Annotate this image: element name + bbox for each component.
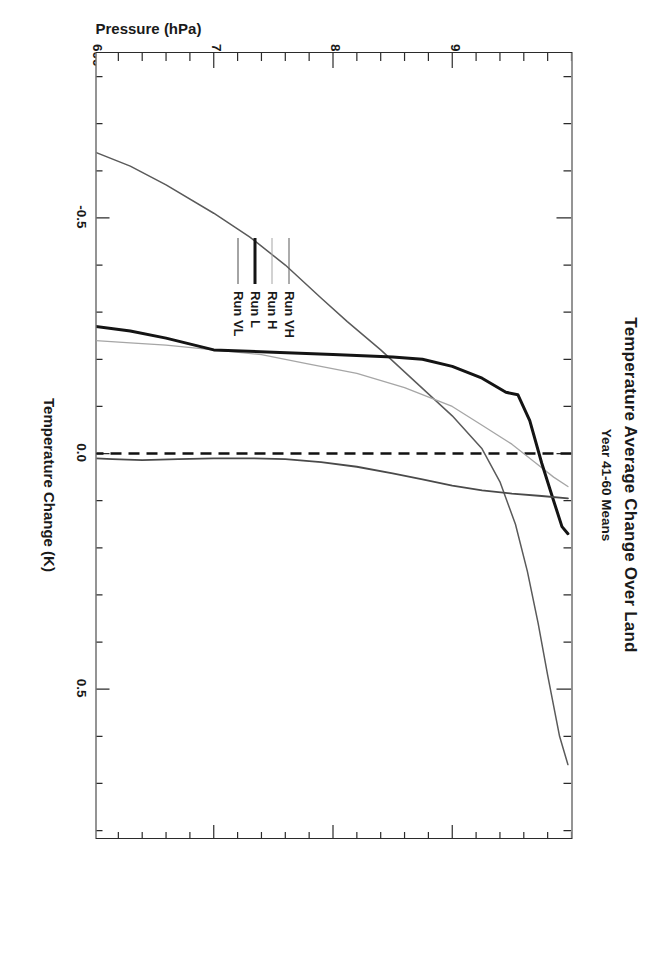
legend-swatch [237,238,238,284]
plot-area [95,52,572,839]
plot-canvas [96,53,571,838]
legend-label: Run H [264,291,279,329]
temperature-tick-label: 0.0 [73,443,88,462]
series-line-run-l [96,326,567,533]
series-line-run-vl [96,458,567,498]
legend-swatch [271,238,272,284]
pressure-axis-label: Pressure (hPa) [95,20,201,37]
plot-inner [96,53,571,838]
series-line-run-vh [96,152,567,765]
legend-row: Run VH [280,238,297,388]
chart-title: Temperature Average Change Over Land [619,0,639,970]
legend-label: Run L [247,291,262,328]
rotated-figure-wrapper: Temperature Average Change Over Land Yea… [0,0,657,970]
legend-row: Run H [263,238,280,388]
temperature-tick-label: -0.5 [73,205,88,228]
legend-swatch [288,238,289,284]
chart-subtitle: Year 41-60 Means [598,0,613,970]
legend-row: Run L [246,238,263,388]
series-line-run-h [96,340,567,486]
legend-swatch [253,238,256,284]
temperature-axis-label: Temperature Change (K) [40,0,57,970]
chart-figure: Temperature Average Change Over Land Yea… [0,0,657,970]
legend-label: Run VH [281,291,296,338]
legend-label: Run VL [230,291,245,337]
temperature-tick-label: 0.5 [73,679,88,698]
legend: Run VHRun HRun LRun VL [229,238,297,388]
legend-row: Run VL [229,238,246,388]
